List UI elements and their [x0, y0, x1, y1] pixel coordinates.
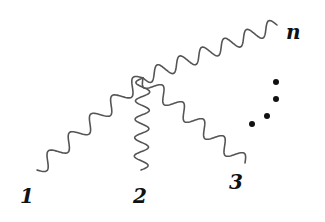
ellipsis-dot — [273, 96, 279, 102]
feynman-diagram — [0, 0, 325, 222]
wavy-line-3 — [142, 78, 245, 163]
ellipsis-dot — [273, 79, 279, 85]
wavy-line-n — [143, 21, 277, 83]
wavy-line-2 — [134, 78, 149, 170]
line-label-2: 2 — [133, 186, 147, 206]
line-label-n: n — [286, 22, 301, 42]
wavy-line-1 — [37, 76, 143, 171]
ellipsis-dot — [264, 113, 270, 119]
line-label-3: 3 — [229, 172, 243, 192]
ellipsis-dot — [249, 121, 255, 127]
line-label-1: 1 — [20, 186, 34, 206]
